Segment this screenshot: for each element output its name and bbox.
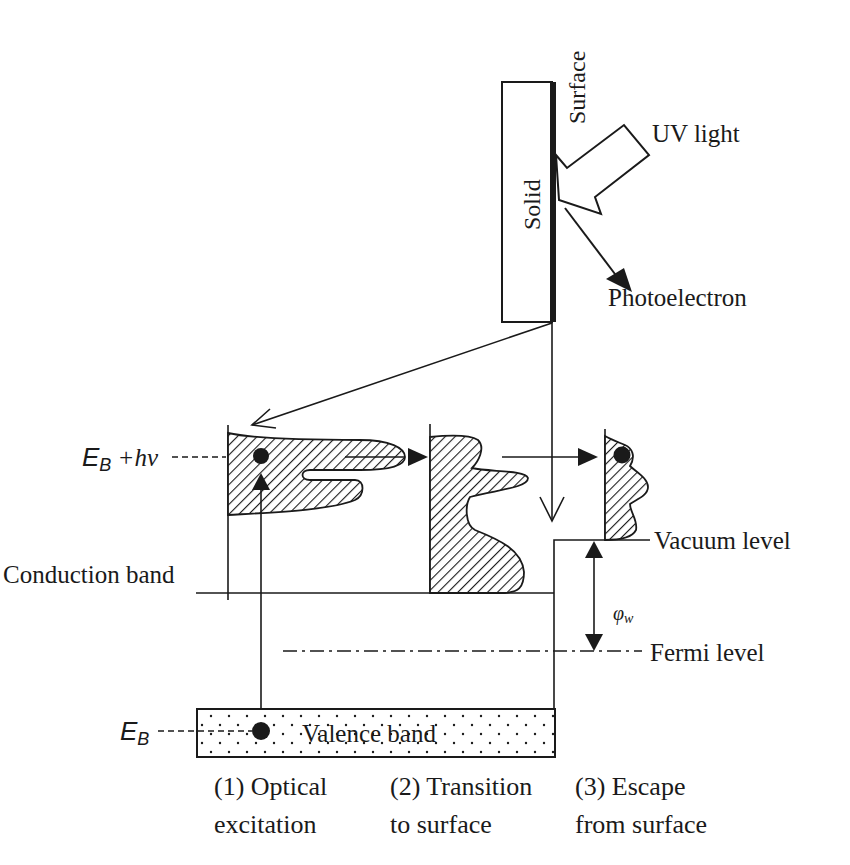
work-function-label: φw: [613, 602, 634, 626]
valence-band-label: Valence band: [302, 720, 436, 747]
vacuum-level-line: [554, 540, 650, 593]
uv-light-label: UV light: [652, 120, 740, 147]
work-function-arrowhead-up-icon: [585, 541, 603, 558]
svg-text:(1) Optical: (1) Optical: [214, 772, 327, 801]
step-caption-3: (3) Escape from surface: [575, 772, 707, 839]
step1-to-step2-arrowhead-icon: [408, 448, 428, 466]
surface-label: Surface: [564, 51, 590, 124]
svg-text:to surface: to surface: [390, 810, 492, 839]
diagram-canvas: Solid Surface UV light Photoelectron EB …: [0, 0, 850, 865]
ground-state-electron-icon: [252, 722, 270, 740]
step-caption-1: (1) Optical excitation: [214, 772, 327, 839]
step2-to-step3-arrowhead-icon: [578, 448, 598, 466]
conduction-band-label: Conduction band: [3, 561, 175, 588]
step2-distribution: [430, 436, 528, 593]
step1-distribution: [228, 433, 405, 515]
solid-label: Solid: [519, 179, 545, 230]
eb-hv-label: EB +hν: [82, 442, 159, 475]
svg-text:excitation: excitation: [214, 810, 317, 839]
vacuum-level-label: Vacuum level: [654, 527, 791, 554]
svg-text:(3) Escape: (3) Escape: [575, 772, 685, 801]
svg-text:(2) Transition: (2) Transition: [390, 772, 532, 801]
work-function-arrowhead-down-icon: [585, 634, 603, 651]
step-caption-2: (2) Transition to surface: [390, 772, 532, 839]
uv-light-arrow-icon: [556, 125, 649, 214]
escaping-electron-icon: [614, 447, 631, 464]
excited-electron-icon: [253, 448, 269, 464]
zoom-arrow-left: [252, 323, 552, 425]
photoelectron-label: Photoelectron: [608, 284, 747, 311]
photoelectron-arrow: [565, 208, 618, 278]
fermi-level-label: Fermi level: [650, 639, 765, 666]
photoemission-diagram: Solid Surface UV light Photoelectron EB …: [0, 0, 850, 865]
eb-label: EB: [120, 716, 149, 749]
surface-layer: [550, 82, 556, 322]
svg-text:from surface: from surface: [575, 810, 707, 839]
